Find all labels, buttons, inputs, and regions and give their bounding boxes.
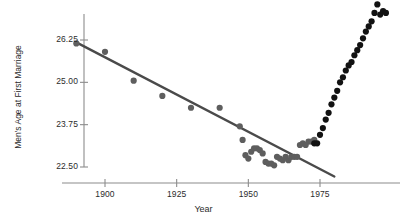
- y-axis-title: Men's Age at First Marriage: [13, 17, 23, 177]
- x-axis-title: Year: [0, 204, 407, 214]
- chart-figure: Men's Age at First Marriage Year 22.5023…: [0, 0, 407, 224]
- data-point: [334, 88, 340, 94]
- data-point: [360, 35, 366, 41]
- data-point: [323, 116, 329, 122]
- data-point: [159, 93, 165, 99]
- data-point: [374, 1, 380, 7]
- data-point: [371, 10, 377, 16]
- data-point: [331, 94, 337, 100]
- data-point: [188, 105, 194, 111]
- data-point: [245, 155, 251, 161]
- data-point: [314, 140, 320, 146]
- data-point: [294, 154, 300, 160]
- y-axis-tick-label: 25.00: [30, 76, 78, 86]
- data-point: [271, 162, 277, 168]
- x-axis-tick-label: 1925: [152, 189, 202, 199]
- series-rising-period: [311, 1, 389, 146]
- y-axis-tick-label: 22.50: [30, 161, 78, 171]
- data-point: [340, 74, 346, 80]
- data-point: [383, 10, 389, 16]
- data-point: [320, 125, 326, 131]
- data-point: [237, 123, 243, 129]
- data-point: [357, 42, 363, 48]
- data-point: [317, 132, 323, 138]
- y-axis-tick-label: 26.25: [30, 34, 78, 44]
- x-axis-tick-label: 1900: [80, 189, 130, 199]
- x-axis-tick-label: 1950: [223, 189, 273, 199]
- data-point: [131, 78, 137, 84]
- data-point: [240, 137, 246, 143]
- x-axis-tick-label: 1975: [295, 189, 345, 199]
- data-point: [217, 105, 223, 111]
- data-point: [369, 18, 375, 24]
- data-point: [348, 59, 354, 65]
- data-point: [102, 49, 108, 55]
- data-point: [260, 150, 266, 156]
- data-point: [328, 101, 334, 107]
- y-axis-tick-label: 23.75: [30, 119, 78, 129]
- data-point: [326, 110, 332, 116]
